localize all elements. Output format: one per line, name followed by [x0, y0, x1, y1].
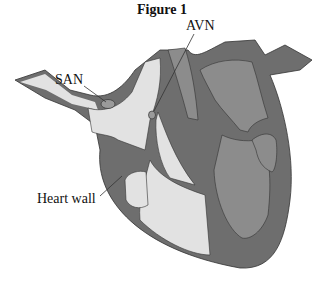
san-label: SAN [55, 72, 83, 87]
heart-diagram: SAN AVN Heart wall [0, 0, 324, 289]
av-node [149, 111, 156, 119]
lower-left-pocket [125, 171, 148, 207]
sa-node [101, 100, 115, 109]
avn-label: AVN [186, 18, 215, 33]
heart-wall-label: Heart wall [37, 191, 96, 206]
